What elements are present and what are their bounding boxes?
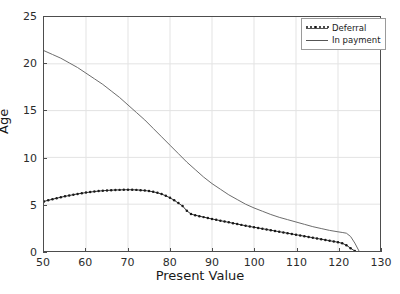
x-tick-mark	[339, 248, 340, 252]
y-tick-mark	[43, 63, 47, 64]
x-tick-mark	[254, 248, 255, 252]
y-tick-label: 15	[23, 104, 37, 117]
x-tick-mark	[381, 248, 382, 252]
legend-label-deferral: Deferral	[332, 23, 366, 33]
legend-item-deferral: Deferral	[306, 22, 380, 34]
y-tick-mark	[43, 252, 47, 253]
plot-area	[43, 16, 381, 252]
x-tick-mark	[170, 248, 171, 252]
legend-marker-in-payment	[306, 35, 328, 45]
y-axis-label: Age	[0, 109, 11, 134]
y-tick-label: 5	[30, 198, 37, 211]
y-tick-mark	[43, 205, 47, 206]
legend-dots	[306, 26, 328, 31]
x-tick-mark	[297, 248, 298, 252]
x-tick-mark	[128, 248, 129, 252]
legend-marker-deferral	[306, 23, 328, 33]
chart-legend: Deferral In payment	[301, 18, 386, 50]
y-tick-label: 25	[23, 10, 37, 23]
y-tick-mark	[43, 158, 47, 159]
legend-item-in-payment: In payment	[306, 34, 380, 46]
y-tick-label: 10	[23, 151, 37, 164]
x-tick-mark	[43, 248, 44, 252]
y-tick-label: 20	[23, 57, 37, 70]
data-series-layer	[44, 17, 380, 251]
y-tick-mark	[43, 16, 47, 17]
x-axis-label: Present Value	[0, 268, 400, 283]
y-tick-mark	[43, 110, 47, 111]
legend-label-in-payment: In payment	[332, 35, 380, 45]
x-tick-mark	[212, 248, 213, 252]
x-tick-mark	[85, 248, 86, 252]
chart-figure: 05101520255060708090100110120130 Present…	[0, 0, 400, 294]
